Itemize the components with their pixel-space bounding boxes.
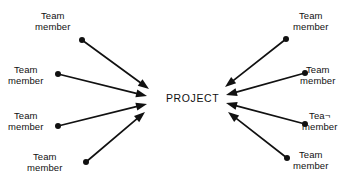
- label-line-1: Team: [8, 110, 43, 121]
- arrowhead-icon: [226, 102, 238, 110]
- label-line-2: member: [300, 75, 335, 86]
- connector-line: [58, 74, 139, 94]
- connector-line: [234, 73, 305, 93]
- arrowhead-icon: [138, 79, 149, 89]
- team-member-label-left-2: Teammember: [8, 64, 43, 86]
- member-dot-icon: [55, 123, 61, 129]
- team-member-label-left-3: Teammember: [8, 110, 43, 132]
- member-dot-icon: [83, 159, 89, 165]
- member-dot-icon: [284, 155, 290, 161]
- team-member-label-right-4: Teammember: [293, 149, 328, 171]
- label-line-1: Team: [293, 149, 328, 160]
- arrowhead-icon: [226, 88, 238, 96]
- label-line-2: member: [302, 121, 337, 132]
- team-member-label-right-2: Teammember: [300, 64, 335, 86]
- team-member-label-right-1: Teammember: [293, 10, 328, 32]
- connector-line: [82, 40, 143, 84]
- label-line-2: member: [27, 162, 62, 173]
- member-dot-icon: [55, 71, 61, 77]
- arrowhead-icon: [135, 103, 147, 111]
- label-line-2: member: [8, 121, 43, 132]
- project-convergence-diagram: PROJECT TeammemberTeammemberTeammemberTe…: [0, 0, 363, 181]
- connector-line: [86, 117, 139, 162]
- connector-line: [234, 105, 305, 124]
- arrowhead-icon: [135, 89, 147, 97]
- label-line-2: member: [293, 21, 328, 32]
- label-line-2: member: [293, 160, 328, 171]
- member-dot-icon: [79, 37, 85, 43]
- label-line-1: Tea¬: [302, 110, 337, 121]
- label-line-1: Team: [8, 64, 43, 75]
- label-line-1: Team: [293, 10, 328, 21]
- connector-line: [58, 106, 139, 126]
- team-member-label-right-3: Tea¬member: [302, 110, 337, 132]
- label-line-1: Team: [300, 64, 335, 75]
- member-dot-icon: [283, 36, 289, 42]
- team-member-label-left-4: Teammember: [27, 151, 62, 173]
- label-line-2: member: [8, 75, 43, 86]
- team-member-label-left-1: Teammember: [35, 10, 70, 32]
- connector-line: [234, 117, 287, 158]
- connector-line: [231, 39, 286, 82]
- label-line-2: member: [35, 21, 70, 32]
- project-label: PROJECT: [166, 92, 219, 104]
- label-line-1: Team: [27, 151, 62, 162]
- label-line-1: Team: [35, 10, 70, 21]
